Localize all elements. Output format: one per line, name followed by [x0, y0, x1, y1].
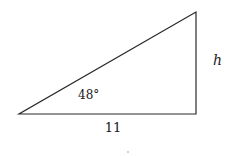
right-triangle	[19, 12, 196, 114]
triangle-diagram: 48° 11 h	[0, 0, 229, 156]
height-label: h	[213, 52, 222, 68]
stray-dot	[127, 151, 129, 153]
base-label: 11	[105, 120, 122, 135]
angle-label: 48°	[78, 88, 99, 102]
